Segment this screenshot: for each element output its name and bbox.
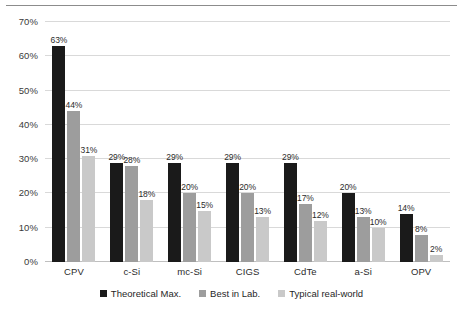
legend-label: Typical real-world (289, 288, 363, 299)
x-axis-labels: CPVc-Simc-SiCIGSCdTea-SiOPV (45, 266, 450, 277)
bar-wrapper: 63% (52, 22, 65, 262)
bar-wrapper: 20% (183, 22, 196, 262)
bar-value-label: 28% (123, 155, 140, 165)
bar-value-label: 44% (66, 100, 83, 110)
bar-group-cdte: 29%17%12% (276, 22, 334, 262)
bar-cdte-series-2[interactable] (299, 204, 312, 262)
bar-value-label: 31% (81, 145, 98, 155)
y-axis-tick-label: 20% (19, 187, 38, 198)
bar-wrapper: 10% (372, 22, 385, 262)
y-axis-tick-label: 60% (19, 50, 38, 61)
legend-swatch-icon (199, 290, 206, 297)
bar-c-si-series-3[interactable] (140, 200, 153, 262)
bar-value-label: 29% (166, 152, 183, 162)
bar-cpv-series-2[interactable] (67, 111, 80, 262)
bar-wrapper: 28% (125, 22, 138, 262)
bar-c-si-series-2[interactable] (125, 166, 138, 262)
bar-value-label: 20% (181, 182, 198, 192)
bar-wrapper: 13% (357, 22, 370, 262)
bar-cigs-series-3[interactable] (256, 217, 269, 262)
bar-opv-series-1[interactable] (400, 214, 413, 262)
bar-value-label: 20% (239, 182, 256, 192)
x-axis-label-a-si: a-Si (334, 266, 392, 277)
bar-wrapper: 15% (198, 22, 211, 262)
bar-value-label: 10% (370, 217, 387, 227)
top-divider (6, 5, 457, 6)
bar-value-label: 2% (430, 244, 442, 254)
bars: 29%20%13% (219, 22, 277, 262)
bar-value-label: 8% (415, 224, 427, 234)
y-axis-tick-label: 30% (19, 153, 38, 164)
bar-a-si-series-2[interactable] (357, 217, 370, 262)
bar-value-label: 18% (138, 189, 155, 199)
bar-value-label: 29% (282, 152, 299, 162)
legend-swatch-icon (100, 290, 107, 297)
bar-mc-si-series-3[interactable] (198, 211, 211, 262)
x-axis-label-cdte: CdTe (276, 266, 334, 277)
bar-opv-series-3[interactable] (430, 255, 443, 262)
bar-wrapper: 2% (430, 22, 443, 262)
bar-value-label: 13% (355, 206, 372, 216)
bars: 29%28%18% (103, 22, 161, 262)
bar-opv-series-2[interactable] (415, 235, 428, 262)
x-axis-label-opv: OPV (392, 266, 450, 277)
bar-wrapper: 29% (110, 22, 123, 262)
bars: 29%17%12% (276, 22, 334, 262)
bar-wrapper: 20% (241, 22, 254, 262)
bar-wrapper: 20% (342, 22, 355, 262)
bar-wrapper: 29% (226, 22, 239, 262)
bar-value-label: 29% (224, 152, 241, 162)
plot-area: 0%10%20%30%40%50%60%70% 63%44%31%29%28%1… (45, 22, 450, 262)
legend-label: Theoretical Max. (111, 288, 181, 299)
bar-cdte-series-1[interactable] (284, 163, 297, 262)
bar-wrapper: 12% (314, 22, 327, 262)
y-axis-tick-label: 50% (19, 84, 38, 95)
bars: 14%8%2% (392, 22, 450, 262)
bar-groups: 63%44%31%29%28%18%29%20%15%29%20%13%29%1… (45, 22, 450, 262)
bar-cdte-series-3[interactable] (314, 221, 327, 262)
bar-a-si-series-1[interactable] (342, 193, 355, 262)
x-axis-label-cpv: CPV (45, 266, 103, 277)
bar-value-label: 63% (51, 35, 68, 45)
bar-wrapper: 8% (415, 22, 428, 262)
bars: 29%20%15% (161, 22, 219, 262)
bar-wrapper: 29% (168, 22, 181, 262)
bar-c-si-series-1[interactable] (110, 163, 123, 262)
bar-wrapper: 17% (299, 22, 312, 262)
legend-item-best-in-lab[interactable]: Best in Lab. (199, 288, 260, 299)
bar-wrapper: 14% (400, 22, 413, 262)
bar-wrapper: 18% (140, 22, 153, 262)
bars: 63%44%31% (45, 22, 103, 262)
y-axis-tick-label: 0% (24, 256, 38, 267)
bar-mc-si-series-2[interactable] (183, 193, 196, 262)
bar-mc-si-series-1[interactable] (168, 163, 181, 262)
x-axis-label-mc-si: mc-Si (161, 266, 219, 277)
legend-item-typical-real-world[interactable]: Typical real-world (278, 288, 363, 299)
bar-cpv-series-1[interactable] (52, 46, 65, 262)
y-axis-tick-label: 70% (19, 16, 38, 27)
bar-value-label: 12% (312, 210, 329, 220)
solar-cell-efficiency-bar-chart: 0%10%20%30%40%50%60%70% 63%44%31%29%28%1… (0, 0, 463, 309)
legend-label: Best in Lab. (210, 288, 260, 299)
bar-value-label: 20% (340, 182, 357, 192)
bar-wrapper: 44% (67, 22, 80, 262)
bar-cigs-series-1[interactable] (226, 163, 239, 262)
legend-item-theoretical-max[interactable]: Theoretical Max. (100, 288, 181, 299)
bar-value-label: 15% (196, 200, 213, 210)
bar-wrapper: 29% (284, 22, 297, 262)
bar-wrapper: 31% (82, 22, 95, 262)
x-axis-label-cigs: CIGS (219, 266, 277, 277)
bar-cigs-series-2[interactable] (241, 193, 254, 262)
legend-swatch-icon (278, 290, 285, 297)
bar-group-mc-si: 29%20%15% (161, 22, 219, 262)
bar-a-si-series-3[interactable] (372, 228, 385, 262)
bar-value-label: 13% (254, 206, 271, 216)
bar-group-opv: 14%8%2% (392, 22, 450, 262)
bar-cpv-series-3[interactable] (82, 156, 95, 262)
bar-wrapper: 13% (256, 22, 269, 262)
chart-legend: Theoretical Max.Best in Lab.Typical real… (0, 288, 463, 299)
y-axis-tick-label: 10% (19, 221, 38, 232)
bar-value-label: 17% (297, 193, 314, 203)
bar-group-cpv: 63%44%31% (45, 22, 103, 262)
bar-value-label: 14% (398, 203, 415, 213)
